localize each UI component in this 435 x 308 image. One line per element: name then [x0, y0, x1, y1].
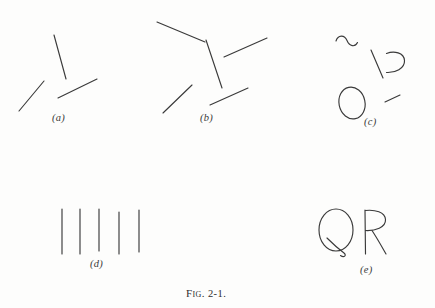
figure-caption: Fig. 2-1. — [186, 287, 226, 299]
letter-r-bowl — [366, 210, 386, 230]
letter-q-bowl — [319, 209, 353, 251]
letter-r-leg — [372, 231, 386, 255]
open-c-shape-icon — [387, 52, 405, 72]
figure-container: (a) (b) (c) (d) (e) Fig. 2-1. — [0, 0, 435, 308]
line-b-central-vertical — [206, 40, 222, 88]
panel-label-c: (c) — [364, 116, 377, 127]
line-a-lower-left-diagonal — [19, 81, 44, 111]
panel-a-drawing — [0, 0, 435, 308]
line-b-upper-left-diagonal — [157, 22, 205, 42]
letter-r-stem — [365, 210, 366, 254]
line-b-lower-right-diagonal — [210, 88, 248, 105]
panel-label-a: (a) — [52, 112, 65, 123]
caption-number: 2-1. — [208, 288, 226, 299]
panel-label-e: (e) — [360, 264, 373, 275]
panel-b-lines — [157, 22, 267, 113]
line-c-diagonal — [371, 50, 383, 78]
line-a-upper-vertical — [54, 35, 66, 79]
panel-a-lines — [19, 35, 97, 111]
line-c-short-dash — [385, 95, 400, 102]
panel-label-d: (d) — [90, 258, 103, 269]
letter-q-tail — [327, 238, 345, 257]
line-b-lower-left-diagonal — [163, 85, 192, 113]
caption-prefix: Fig. — [186, 287, 205, 299]
panel-label-b: (b) — [200, 112, 213, 123]
panel-c-shapes — [336, 36, 405, 121]
tilde-squiggle-icon — [336, 36, 358, 46]
panel-d-lines — [62, 209, 139, 254]
panel-e-letters — [319, 209, 386, 257]
line-a-lower-right-diagonal — [58, 79, 97, 98]
line-b-upper-right-diagonal — [224, 38, 267, 57]
